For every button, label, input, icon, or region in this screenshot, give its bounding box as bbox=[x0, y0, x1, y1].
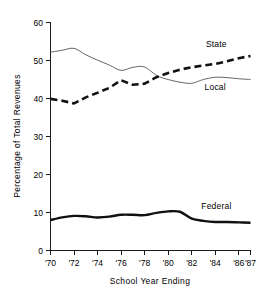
x-tick-label: '86 bbox=[233, 258, 244, 268]
x-tick-label: '87 bbox=[245, 258, 256, 268]
chart-container: 0102030405060 '70'72'74'76'78'80'82'84'8… bbox=[0, 0, 267, 291]
x-axis-tick-labels: '70'72'74'76'78'80'82'84'86'87 bbox=[45, 258, 256, 268]
x-axis-ticks bbox=[51, 251, 251, 256]
data-series bbox=[51, 48, 251, 223]
x-tick-label: '74 bbox=[92, 258, 103, 268]
y-axis-ticks bbox=[46, 23, 51, 251]
line-chart: 0102030405060 '70'72'74'76'78'80'82'84'8… bbox=[0, 0, 267, 291]
x-tick-label: '80 bbox=[163, 258, 174, 268]
x-axis-title: School Year Ending bbox=[110, 276, 191, 286]
y-axis-title: Percentage of Total Revenues bbox=[12, 74, 22, 198]
y-tick-label: 0 bbox=[38, 246, 43, 256]
x-tick-label: '82 bbox=[186, 258, 197, 268]
x-tick-label: '78 bbox=[139, 258, 150, 268]
x-tick-label: '76 bbox=[116, 258, 127, 268]
series-line-federal bbox=[51, 211, 251, 223]
series-label-federal: Federal bbox=[201, 201, 231, 211]
series-label-local: Local bbox=[205, 82, 226, 92]
x-tick-label: '70 bbox=[45, 258, 56, 268]
y-tick-label: 20 bbox=[34, 170, 44, 180]
y-tick-label: 10 bbox=[34, 208, 44, 218]
y-tick-label: 60 bbox=[34, 18, 44, 28]
series-line-state bbox=[51, 56, 251, 104]
y-tick-label: 50 bbox=[34, 56, 44, 66]
x-tick-label: '72 bbox=[68, 258, 79, 268]
y-tick-label: 40 bbox=[34, 94, 44, 104]
series-line-local bbox=[51, 48, 251, 83]
x-tick-label: '84 bbox=[210, 258, 221, 268]
series-label-state: State bbox=[206, 39, 227, 49]
y-axis-tick-labels: 0102030405060 bbox=[34, 18, 44, 256]
y-tick-label: 30 bbox=[34, 132, 44, 142]
